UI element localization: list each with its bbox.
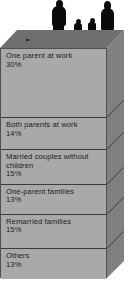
stack-segment: Married couples without children15% (1, 150, 106, 185)
block-top-face (0, 30, 124, 48)
side-face-divider (107, 231, 124, 249)
stacked-block: One parent at work30%Both parents at wor… (0, 30, 138, 296)
side-face-divider (107, 167, 124, 185)
block-front-stack: One parent at work30%Both parents at wor… (0, 48, 107, 278)
stack-segment-value: 30% (6, 61, 106, 70)
side-face-divider (107, 100, 124, 118)
adult-female-silhouette-body (101, 8, 114, 30)
stack-segment-label: Married couples without children (6, 153, 106, 170)
adult-male-silhouette-body (52, 6, 66, 26)
block-side-face (107, 30, 124, 278)
stack-segment-value: 15% (6, 226, 106, 235)
stack-segment-value: 13% (6, 261, 106, 270)
stack-segment: Remarried families15% (1, 215, 106, 250)
stack-segment: One parent at work30% (1, 49, 106, 118)
side-face-divider (107, 132, 124, 150)
stack-segment: Others13% (1, 249, 106, 279)
figure-caption (4, 288, 136, 296)
side-face-divider (107, 196, 124, 214)
stack-segment: Both parents at work14% (1, 118, 106, 150)
family-types-stacked-block-figure: One parent at work30%Both parents at wor… (0, 0, 138, 296)
stack-segment-value: 13% (6, 196, 106, 205)
stack-segment-value: 15% (6, 170, 106, 179)
stack-segment-value: 14% (6, 130, 106, 139)
top-face-speck (26, 39, 29, 41)
stack-segment: One-parent families13% (1, 185, 106, 215)
